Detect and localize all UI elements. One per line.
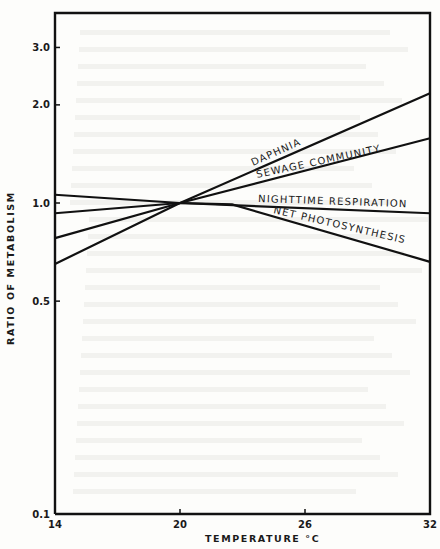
y-tick-label: 3.0	[32, 42, 50, 53]
x-axis-ticks: 14202632	[48, 509, 437, 530]
x-tick-label: 14	[48, 519, 62, 530]
x-tick-label: 26	[298, 519, 312, 530]
x-tick-label: 20	[173, 519, 187, 530]
y-tick-label: 0.1	[32, 509, 50, 520]
y-tick-label: 2.0	[32, 99, 50, 110]
metabolism-chart: 0.10.51.02.03.0 14202632 DAPHNIASEWAGE C…	[0, 0, 440, 549]
x-axis-title: TEMPERATURE °C	[205, 533, 320, 544]
y-tick-label: 0.5	[32, 296, 50, 307]
y-tick-label: 1.0	[32, 198, 50, 209]
y-axis-title: RATIO OF METABOLISM	[5, 191, 16, 345]
background-bleed-text	[70, 30, 428, 494]
x-tick-label: 32	[423, 519, 437, 530]
